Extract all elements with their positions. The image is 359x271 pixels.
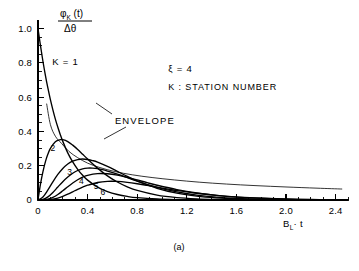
curve-label-6: 6 [101, 187, 106, 197]
station-number-key: K : STATION NUMBER [168, 82, 277, 92]
envelope-leader-line-upper [96, 103, 112, 114]
x-tick-label: 1.6 [229, 205, 243, 216]
curve-label-4: 4 [79, 176, 84, 186]
y-axis-title-denominator: Δθ [64, 23, 77, 34]
curve-label-2: 2 [50, 143, 55, 153]
x-tick-label: 1.2 [180, 205, 194, 216]
series-curve-k2 [38, 139, 348, 200]
figure-caption: (a) [174, 242, 185, 252]
x-tick-label: 0.4 [81, 205, 95, 216]
x-tick-label: 0 [35, 205, 40, 216]
x-axis-title: BL· t [283, 218, 303, 231]
series-curve-k3 [38, 159, 348, 200]
x-tick-label: 2.0 [279, 205, 293, 216]
curve-label-3: 3 [67, 167, 72, 177]
y-tick-label: 0.4 [18, 126, 32, 137]
y-axis-title-numerator: φK (t) [60, 8, 83, 21]
series-curve-k4 [38, 168, 348, 200]
k-one-label: K = 1 [52, 56, 78, 67]
envelope-label: ENVELOPE [115, 115, 175, 126]
y-tick-label: 0.2 [18, 160, 32, 171]
x-tick-label: 0.8 [130, 205, 144, 216]
curve-label-5: 5 [94, 181, 99, 191]
y-tick-label: 1.0 [18, 23, 32, 34]
series-curve-k1 [38, 29, 348, 200]
envelope-leader-line [104, 127, 126, 139]
envelope-curve [47, 104, 342, 189]
figure-container: 00.40.81.21.62.02.400.20.40.60.81.023456… [0, 0, 359, 271]
y-tick-label: 0 [27, 194, 32, 205]
chart-canvas: 00.40.81.21.62.02.400.20.40.60.81.023456… [0, 0, 359, 271]
y-tick-label: 0.8 [18, 57, 32, 68]
xi-value: ξ = 4 [168, 63, 192, 74]
chart-generated-layer: 00.40.81.21.62.02.400.20.40.60.81.023456… [18, 8, 348, 252]
y-tick-label: 0.6 [18, 92, 32, 103]
series-curve-k6 [38, 181, 348, 200]
x-tick-label: 2.4 [329, 205, 343, 216]
